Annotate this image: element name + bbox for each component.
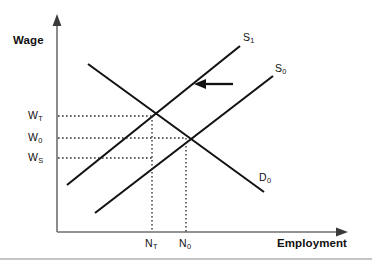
y-tick-w0-sub: 0 xyxy=(38,136,42,145)
x-tick-n0-base: N xyxy=(179,237,187,249)
y-tick-wt-sub: T xyxy=(38,114,43,123)
curve-label-d0-sub: 0 xyxy=(267,176,271,185)
supply-demand-diagram: Wage Employment WT W0 WS NT N0 S1 S0 D0 xyxy=(0,0,372,268)
x-tick-label-nt: NT xyxy=(145,238,157,249)
y-tick-ws-base: W xyxy=(28,151,38,163)
y-axis-title: Wage xyxy=(13,35,44,47)
x-tick-n0-sub: 0 xyxy=(187,242,191,251)
curve-label-s0-base: S xyxy=(275,62,282,74)
y-tick-w0-base: W xyxy=(28,131,38,143)
x-tick-nt-sub: T xyxy=(153,242,158,251)
y-tick-label-w0: W0 xyxy=(28,132,42,143)
curve-label-s0-sub: 0 xyxy=(282,67,286,76)
curve-label-d0-base: D xyxy=(259,171,267,183)
x-axis-title: Employment xyxy=(277,238,347,250)
y-tick-ws-sub: S xyxy=(38,156,43,165)
curve-label-d0: D0 xyxy=(259,172,271,183)
diagram-canvas xyxy=(0,0,372,268)
y-tick-wt-base: W xyxy=(28,109,38,121)
x-tick-label-n0: N0 xyxy=(179,238,191,249)
curve-label-s1-base: S xyxy=(243,31,250,43)
y-tick-label-ws: WS xyxy=(28,152,43,163)
curve-label-s1-sub: 1 xyxy=(250,36,254,45)
curve-label-s0: S0 xyxy=(275,63,286,74)
demand-curve-d0 xyxy=(88,64,264,192)
x-axis-arrowhead xyxy=(336,228,348,237)
x-tick-nt-base: N xyxy=(145,237,153,249)
curve-label-s1: S1 xyxy=(243,32,254,43)
y-tick-label-wt: WT xyxy=(28,110,42,121)
supply-curve-s0 xyxy=(95,76,273,213)
y-axis-arrowhead xyxy=(53,14,62,26)
